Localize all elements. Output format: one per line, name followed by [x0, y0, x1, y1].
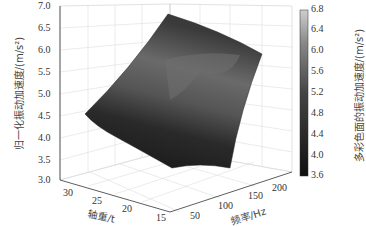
z-axis-label: 归一化振动加速度/(m/s²): [11, 14, 26, 174]
colorbar-label: 多彩色面的振动加速度/(m/s²): [351, 6, 366, 186]
colorbar: [300, 10, 308, 176]
